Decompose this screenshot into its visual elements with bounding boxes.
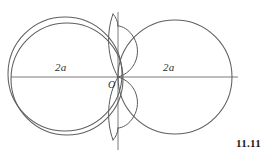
figure-number-label: 11.11 [236,137,261,149]
polar-curve-diagram [0,0,269,162]
left-circle-outer-curve [8,17,122,131]
left-circle-inner-curve [11,23,123,135]
inner-petal-lower-right-curve [113,128,118,140]
inner-petal-upper-left-curve [109,14,118,77]
inner-petal-upper-right-curve [113,14,118,26]
figure-container: 2a 2a O 11.11 [0,0,269,162]
inner-loop-upper-curve [118,26,137,77]
right-diameter-label: 2a [163,62,174,73]
origin-label: O [108,80,115,90]
left-diameter-label: 2a [55,62,66,73]
